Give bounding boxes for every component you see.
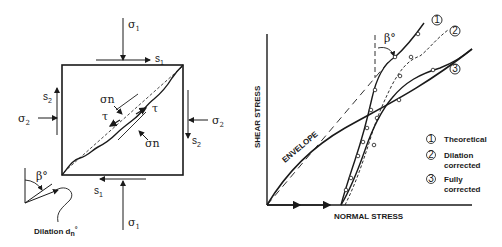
sigma2-left-label: σ2 xyxy=(18,112,30,127)
sigma-n-upper-label: σn xyxy=(100,93,115,106)
beta-arc-graph xyxy=(378,47,394,56)
sigma1-bottom-label: σ1 xyxy=(128,216,140,231)
legend: 1 Theoretical 2 Dilation corrected 3 Ful… xyxy=(427,133,487,194)
shear-stress-graph: SHEAR STRESS NORMAL STRESS ENVELOPE β° xyxy=(253,14,487,221)
legend-2-label: Dilation xyxy=(444,151,473,160)
tau-right-label: τ xyxy=(152,102,158,115)
dilation-leader xyxy=(56,188,72,222)
legend-1-num: 1 xyxy=(428,133,434,144)
tau-left-arrow xyxy=(110,120,120,126)
legend-3-num: 3 xyxy=(428,173,434,184)
diagram-canvas: σ1 s1 σ1 s1 σ2 s2 σ2 s2 σn σn τ τ xyxy=(0,0,502,247)
shear-specimen: σ1 s1 σ1 s1 σ2 s2 σ2 s2 σn σn τ τ xyxy=(18,18,224,237)
sigma-n-upper-arrow xyxy=(114,106,122,114)
s2-right-label: s2 xyxy=(192,135,201,148)
s2-left-label: s2 xyxy=(43,91,52,104)
envelope-label: ENVELOPE xyxy=(281,129,321,164)
envelope-curve xyxy=(267,49,472,205)
beta-label-left: β° xyxy=(36,170,48,183)
joint-mean-plane xyxy=(64,66,183,172)
beta-label-graph: β° xyxy=(384,32,396,45)
sigma2-right-label: σ2 xyxy=(212,114,224,129)
legend-3-label: Fully xyxy=(444,175,463,184)
joint-upper-face xyxy=(116,94,138,110)
x-axis-label: NORMAL STRESS xyxy=(334,212,404,221)
y-axis-label: SHEAR STRESS xyxy=(253,85,262,148)
legend-2-num: 2 xyxy=(428,149,434,160)
sigma1-top-label: σ1 xyxy=(128,18,140,33)
joint-line xyxy=(62,65,183,175)
marker-3-label: 3 xyxy=(452,63,458,74)
legend-2-label2: corrected xyxy=(444,161,481,170)
marker-2-label: 2 xyxy=(452,25,458,36)
s1-bottom-label: s1 xyxy=(94,185,103,198)
dilation-label: Dilation dn° xyxy=(34,226,78,237)
legend-3-label2: corrected xyxy=(444,185,481,194)
s1-top-label: s1 xyxy=(155,53,164,66)
curve-theoretical xyxy=(341,23,424,205)
legend-1-label: Theoretical xyxy=(444,135,487,144)
joint-lower-face xyxy=(118,112,146,140)
marker-1-label: 1 xyxy=(434,14,440,25)
tau-left-label: τ xyxy=(102,110,108,123)
sigma-n-lower-label: σn xyxy=(145,137,160,150)
dilation-inset: β° Dilation dn° xyxy=(25,168,78,237)
